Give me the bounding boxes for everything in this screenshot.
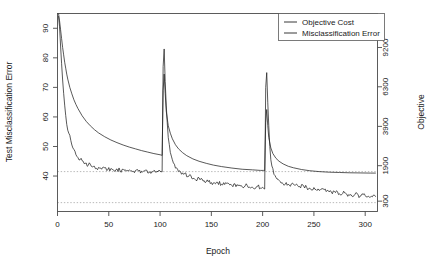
y2-tick-label-300: 300 — [382, 194, 391, 208]
y-tick-label-70: 70 — [42, 82, 51, 91]
y2-tick-label-3900: 3900 — [382, 117, 391, 135]
series-line-misclassification-error — [59, 16, 376, 197]
reference-lines — [58, 172, 378, 203]
y2-tick-label-1900: 1900 — [382, 156, 391, 174]
legend[interactable]: Objective Cost Misclassification Error — [279, 14, 385, 41]
x-tick-label-50: 50 — [104, 220, 113, 229]
chart-figure: 0501001502002503004050607080903001900390… — [0, 0, 437, 264]
y-axis-title: Test Misclassification Error — [4, 62, 14, 163]
plot-frame — [58, 14, 378, 212]
y-tick-label-90: 90 — [42, 23, 51, 32]
axis-ticks — [53, 28, 382, 216]
x-axis-title: Epoch — [206, 246, 230, 256]
y2-tick-label-6300: 6300 — [382, 77, 391, 95]
y-tick-label-60: 60 — [42, 112, 51, 121]
y-tick-label-80: 80 — [42, 53, 51, 62]
y2-axis-title: Objective — [416, 94, 426, 130]
x-tick-label-150: 150 — [205, 220, 219, 229]
legend-label-objective-cost: Objective Cost — [302, 18, 355, 27]
y-tick-label-50: 50 — [42, 141, 51, 150]
legend-label-misclassification-error: Misclassification Error — [302, 29, 380, 38]
x-tick-label-200: 200 — [256, 220, 270, 229]
y-tick-label-40: 40 — [42, 171, 51, 180]
plot-canvas: 0501001502002503004050607080903001900390… — [0, 0, 437, 264]
x-tick-label-0: 0 — [55, 220, 60, 229]
axis-tick-labels: 0501001502002503004050607080903001900390… — [42, 23, 391, 228]
x-tick-label-300: 300 — [359, 220, 373, 229]
x-tick-label-250: 250 — [307, 220, 321, 229]
x-tick-label-100: 100 — [153, 220, 167, 229]
data-series-group — [59, 14, 376, 198]
